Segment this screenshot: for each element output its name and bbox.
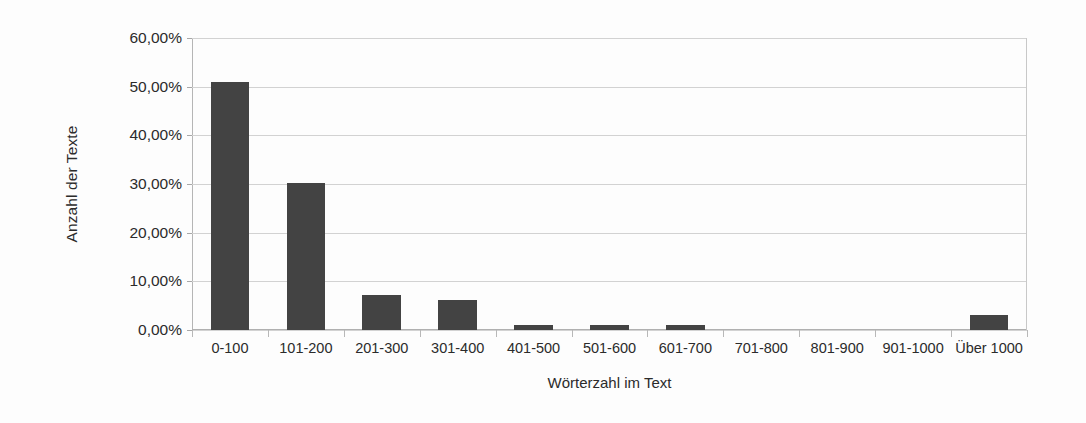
- x-axis-category-label: 401-500: [496, 340, 572, 356]
- bar[interactable]: [211, 82, 250, 330]
- x-axis-tick-mark: [875, 330, 876, 337]
- x-axis-tick-marks: [192, 330, 1027, 337]
- x-axis-category-labels: 0-100101-200201-300301-400401-500501-600…: [192, 340, 1027, 356]
- x-axis-category-label: 0-100: [192, 340, 268, 356]
- bar[interactable]: [438, 300, 477, 330]
- y-axis-title: Anzahl der Texte: [57, 38, 87, 330]
- bar-slot: [647, 38, 723, 330]
- bar-slot: [496, 38, 572, 330]
- x-axis-category-label: 501-600: [572, 340, 648, 356]
- x-axis-category-label: 601-700: [647, 340, 723, 356]
- x-axis-category-label: 301-400: [420, 340, 496, 356]
- x-axis-tick-mark: [1027, 330, 1028, 337]
- bar-slot: [344, 38, 420, 330]
- x-axis-tick-mark: [647, 330, 648, 337]
- bar-slot: [268, 38, 344, 330]
- y-axis-tick-label: 60,00%: [86, 29, 182, 47]
- y-axis-tick-labels: 0,00%10,00%20,00%30,00%40,00%50,00%60,00…: [86, 0, 182, 423]
- bar-slot: [192, 38, 268, 330]
- bar-slot: [875, 38, 951, 330]
- x-axis-tick-mark: [420, 330, 421, 337]
- bar-slot: [420, 38, 496, 330]
- x-axis-tick-mark: [344, 330, 345, 337]
- y-axis-tick-label: 10,00%: [86, 272, 182, 290]
- x-axis-category-label: 201-300: [344, 340, 420, 356]
- x-axis-category-label: 701-800: [723, 340, 799, 356]
- plot-area: [192, 38, 1027, 330]
- x-axis-category-label: 901-1000: [875, 340, 951, 356]
- bar[interactable]: [970, 315, 1009, 330]
- x-axis-tick-mark: [572, 330, 573, 337]
- x-axis-category-label: 801-900: [799, 340, 875, 356]
- bar[interactable]: [362, 295, 401, 330]
- x-axis-tick-mark: [951, 330, 952, 337]
- x-axis-tick-mark: [723, 330, 724, 337]
- x-axis-tick-mark: [268, 330, 269, 337]
- y-axis-tick-label: 30,00%: [86, 175, 182, 193]
- x-axis-tick-mark: [192, 330, 193, 337]
- x-axis-tick-mark: [799, 330, 800, 337]
- bar-slot: [723, 38, 799, 330]
- bar-series: [192, 38, 1027, 330]
- bar-slot: [572, 38, 648, 330]
- y-axis-tick-label: 20,00%: [86, 224, 182, 242]
- y-axis-tick-label: 40,00%: [86, 126, 182, 144]
- x-axis-title: Wörterzahl im Text: [192, 374, 1027, 391]
- x-axis-category-label: 101-200: [268, 340, 344, 356]
- bar-slot: [951, 38, 1027, 330]
- bar-chart: Anzahl der Texte 0,00%10,00%20,00%30,00%…: [0, 0, 1086, 423]
- x-axis-category-label: Über 1000: [951, 340, 1027, 356]
- y-axis-tick-label: 50,00%: [86, 78, 182, 96]
- bar[interactable]: [287, 183, 326, 330]
- y-axis-tick-label: 0,00%: [86, 321, 182, 339]
- bar-slot: [799, 38, 875, 330]
- x-axis-tick-mark: [496, 330, 497, 337]
